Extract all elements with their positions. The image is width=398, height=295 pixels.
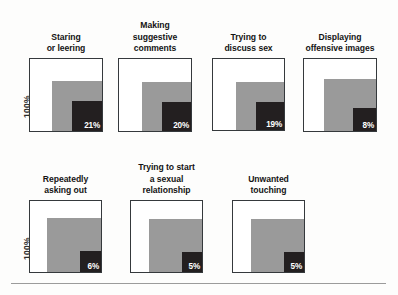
panel-displaying-offensive-images: Displaying offensive images 8%: [300, 0, 380, 136]
bottom-divider-rule: [11, 283, 386, 284]
panel-title: Displaying offensive images: [300, 32, 380, 54]
chart-row-bottom: 100% Repeatedly asking out 6% Trying to …: [0, 150, 398, 285]
value-label: 6%: [88, 262, 99, 272]
panel-staring-or-leering: Staring or leering 21%: [26, 0, 106, 136]
panel-title: Staring or leering: [26, 32, 106, 54]
value-label: 21%: [84, 121, 100, 131]
value-square: 5%: [182, 252, 202, 272]
value-square: 20%: [162, 102, 191, 131]
value-label: 5%: [291, 262, 302, 272]
panel-trying-to-discuss-sex: Trying to discuss sex 19%: [209, 0, 288, 135]
value-label: 20%: [173, 121, 189, 131]
value-square: 6%: [80, 251, 101, 272]
panel-title: Trying to discuss sex: [209, 32, 288, 54]
value-label: 19%: [266, 120, 282, 130]
panel-title: Trying to start a sexual relationship: [127, 162, 206, 196]
panel-title: Making suggestive comments: [115, 20, 195, 54]
nested-square-chart: 100% Staring or leering 21% Making sugge…: [0, 0, 398, 295]
value-label: 5%: [189, 262, 200, 272]
value-square: 8%: [353, 108, 376, 131]
value-label: 8%: [363, 121, 374, 131]
value-square: 19%: [256, 102, 284, 130]
panel-title: Repeatedly asking out: [26, 174, 105, 196]
chart-row-top: 100% Staring or leering 21% Making sugge…: [0, 0, 398, 148]
value-square: 21%: [72, 101, 102, 131]
panel-unwanted-touching: Unwanted touching 5%: [229, 150, 308, 277]
value-square: 5%: [284, 252, 304, 272]
panel-title: Unwanted touching: [229, 174, 308, 196]
panel-making-suggestive-comments: Making suggestive comments 20%: [115, 0, 195, 136]
panel-trying-to-start-a-sexual-relationship: Trying to start a sexual relationship 5%: [127, 150, 206, 277]
panel-repeatedly-asking-out: Repeatedly asking out 6%: [26, 150, 105, 277]
